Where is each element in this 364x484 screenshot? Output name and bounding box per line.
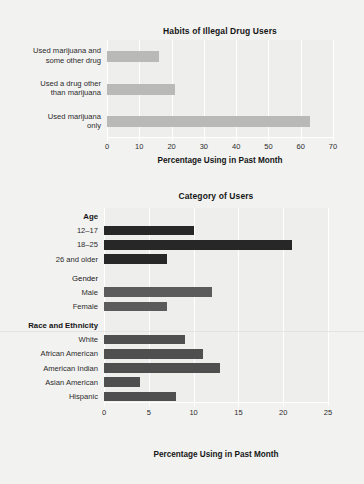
category-label-race-and-ethnicity-0: White (0, 335, 98, 344)
x-tickmark-70 (333, 138, 334, 141)
category-label-gender-1: Female (0, 302, 98, 311)
category-label-line: Used a drug other (5, 79, 101, 88)
category-label-habits-0: Used marijuana andsome other drug (5, 46, 101, 65)
group-header-age: Age (0, 212, 98, 221)
bar-race-and-ethnicity-4[interactable] (104, 392, 176, 402)
x-tick-label-20: 20 (271, 408, 295, 417)
category-label-age-0: 12–17 (0, 226, 98, 235)
x-axis-line-habits (107, 137, 333, 138)
category-label-habits-1: Used a drug otherthan marijuana (5, 79, 101, 98)
x-tickmark-0 (107, 138, 108, 141)
category-label-habits-2: Used marijuanaonly (5, 112, 101, 131)
x-axis-label-category: Percentage Using in Past Month (104, 450, 328, 459)
bar-race-and-ethnicity-2[interactable] (104, 363, 220, 373)
gridline-x-25 (328, 208, 329, 403)
x-tickmark-50 (268, 138, 269, 141)
plot-area-category (104, 208, 328, 403)
category-label-line: Used marijuana (5, 112, 101, 121)
bar-habits-0[interactable] (107, 51, 159, 62)
x-tickmark-60 (301, 138, 302, 141)
figure-divider (0, 331, 364, 332)
category-label-line: only (5, 121, 101, 130)
chart-title-habits: Habits of Illegal Drug Users (107, 26, 333, 36)
x-tickmark-20 (283, 403, 284, 406)
x-tick-label-20: 20 (160, 142, 184, 151)
x-tickmark-15 (238, 403, 239, 406)
group-header-gender: Gender (0, 274, 98, 283)
chart-title-category: Category of Users (104, 191, 328, 201)
gridline-x-70 (333, 40, 334, 138)
x-axis-line-category (104, 402, 328, 403)
bar-age-2[interactable] (104, 254, 167, 264)
gridline-x-15 (238, 208, 239, 403)
category-label-line: Used marijuana and (5, 46, 101, 55)
x-tickmark-20 (172, 138, 173, 141)
x-tickmark-25 (328, 403, 329, 406)
x-tickmark-10 (139, 138, 140, 141)
bar-age-1[interactable] (104, 240, 292, 250)
x-tick-label-10: 10 (182, 408, 206, 417)
x-tick-label-70: 70 (321, 142, 345, 151)
bar-race-and-ethnicity-3[interactable] (104, 377, 140, 387)
x-tickmark-10 (194, 403, 195, 406)
gridline-x-20 (283, 208, 284, 403)
x-tick-label-40: 40 (224, 142, 248, 151)
x-tick-label-10: 10 (127, 142, 151, 151)
category-label-age-2: 26 and older (0, 255, 98, 264)
bar-age-0[interactable] (104, 226, 194, 236)
x-tickmark-5 (149, 403, 150, 406)
chart-category-of-users: Category of Users Percentage Using in Pa… (0, 180, 364, 484)
category-label-gender-0: Male (0, 288, 98, 297)
x-tickmark-0 (104, 403, 105, 406)
bar-gender-0[interactable] (104, 287, 212, 297)
gridline-x-10 (194, 208, 195, 403)
x-tickmark-40 (236, 138, 237, 141)
category-label-age-1: 18–25 (0, 240, 98, 249)
x-tick-label-50: 50 (256, 142, 280, 151)
category-label-race-and-ethnicity-2: American Indian (0, 364, 98, 373)
x-tickmark-30 (204, 138, 205, 141)
x-tick-label-0: 0 (92, 408, 116, 417)
category-label-race-and-ethnicity-3: Asian American (0, 378, 98, 387)
category-label-line: some other drug (5, 56, 101, 65)
chart-habits-of-illegal-drug-users: Habits of Illegal Drug Users Percentage … (0, 0, 364, 175)
group-header-race-and-ethnicity: Race and Ethnicity (0, 321, 98, 330)
x-tick-label-15: 15 (226, 408, 250, 417)
bar-habits-1[interactable] (107, 84, 175, 95)
x-tick-label-0: 0 (95, 142, 119, 151)
x-axis-label-habits: Percentage Using in Past Month (107, 156, 333, 165)
category-label-race-and-ethnicity-1: African American (0, 349, 98, 358)
category-label-line: than marijuana (5, 88, 101, 97)
x-tick-label-5: 5 (137, 408, 161, 417)
plot-area-habits (107, 40, 333, 138)
x-tick-label-60: 60 (289, 142, 313, 151)
x-tick-label-25: 25 (316, 408, 340, 417)
bar-race-and-ethnicity-0[interactable] (104, 335, 185, 345)
bar-race-and-ethnicity-1[interactable] (104, 349, 203, 359)
x-tick-label-30: 30 (192, 142, 216, 151)
bar-habits-2[interactable] (107, 116, 310, 127)
bar-gender-1[interactable] (104, 302, 167, 312)
category-label-race-and-ethnicity-4: Hispanic (0, 392, 98, 401)
figure-canvas: Habits of Illegal Drug Users Percentage … (0, 0, 364, 484)
